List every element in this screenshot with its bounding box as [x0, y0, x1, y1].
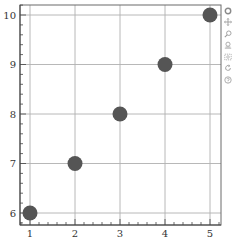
x-tick-label: 2	[72, 228, 78, 239]
zoom-icon[interactable]	[223, 29, 232, 38]
reset-icon[interactable]	[223, 64, 232, 73]
data-point	[203, 8, 218, 23]
x-tick-label: 3	[117, 228, 123, 239]
y-tick-label: 10	[3, 10, 16, 21]
box-zoom-icon[interactable]	[223, 52, 232, 61]
help-icon[interactable]	[223, 75, 232, 84]
pan-icon[interactable]	[223, 18, 232, 27]
scatter-plot: 12345 678910	[0, 0, 233, 243]
data-point	[23, 206, 38, 221]
y-axis-tick-labels: 678910	[3, 10, 16, 219]
wheel-zoom-icon[interactable]	[223, 41, 232, 50]
data-point	[113, 107, 128, 122]
x-tick-label: 1	[27, 228, 33, 239]
plot-toolbar	[222, 6, 233, 87]
bokeh-logo-icon[interactable]	[223, 6, 232, 15]
x-axis-tick-labels: 12345	[27, 228, 213, 239]
x-tick-label: 5	[207, 228, 213, 239]
y-tick-label: 6	[10, 208, 16, 219]
y-tick-label: 8	[10, 109, 16, 120]
y-tick-label: 7	[10, 158, 16, 169]
y-tick-label: 9	[10, 59, 16, 70]
data-point	[158, 57, 173, 72]
x-tick-label: 4	[162, 228, 168, 239]
data-point	[68, 156, 83, 171]
